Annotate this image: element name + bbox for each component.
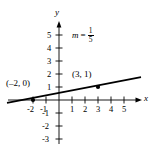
slope-denominator: 5 [88,36,94,44]
x-axis-arrowhead [136,98,143,103]
y-tick-label-3: 3 [47,57,51,66]
x-axis-label: x [144,94,148,103]
y-tick-label-neg2: -2 [42,122,49,131]
point-label-left: (–2, 0) [6,79,30,88]
x-tick-label-neg2: -2 [27,105,34,114]
data-point-left [31,98,35,102]
slope-numerator: 1 [88,27,94,35]
slope-annotation: m = 1 5 [72,27,94,44]
graph-figure: y x 5 4 3 2 1 -1 -2 -3 -2 -1 1 2 3 4 5 (… [0,0,152,151]
y-tick-label-5: 5 [47,31,51,40]
y-axis-arrowhead [57,21,62,28]
slope-equals-sign: = [81,31,86,40]
x-tick-label-2: 2 [83,105,87,114]
x-tick-label-4: 4 [109,105,113,114]
y-tick-label-4: 4 [47,44,51,53]
x-tick-label-1: 1 [70,105,74,114]
slope-fraction: 1 5 [88,27,94,44]
slope-variable: m [72,31,79,40]
point-label-right: (3, 1) [72,70,92,79]
y-tick-label-2: 2 [47,70,51,79]
y-axis-label: y [55,8,59,17]
x-tick-label-neg1: -1 [40,105,47,114]
x-tick-label-3: 3 [96,105,100,114]
x-tick-label-5: 5 [122,105,126,114]
y-tick-label-1: 1 [47,83,51,92]
y-tick-label-neg3: -3 [42,135,49,144]
data-point-right [96,85,100,89]
